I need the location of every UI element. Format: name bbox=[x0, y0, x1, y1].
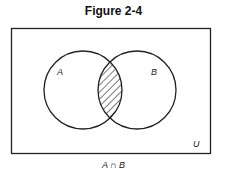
set-b-label: B bbox=[151, 67, 157, 77]
venn-diagram: A B U bbox=[0, 0, 227, 179]
universe-label: U bbox=[193, 139, 200, 149]
figure-caption: A ∩ B bbox=[0, 160, 227, 170]
set-a-label: A bbox=[56, 67, 63, 77]
